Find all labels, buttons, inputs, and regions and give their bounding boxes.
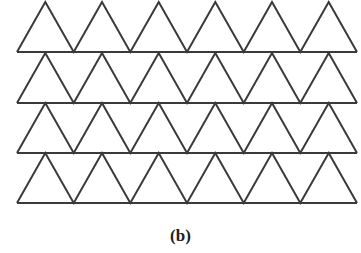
triangle-zigzag [17, 2, 357, 52]
triangle-row [17, 2, 357, 52]
triangle-pattern-diagram [0, 0, 361, 225]
triangle-zigzag [17, 53, 357, 103]
figure-caption: (b) [0, 226, 361, 246]
triangle-zigzag [17, 153, 357, 203]
triangle-row [17, 153, 357, 203]
triangle-row [17, 103, 357, 153]
triangle-row [17, 53, 357, 103]
triangle-zigzag [17, 103, 357, 153]
